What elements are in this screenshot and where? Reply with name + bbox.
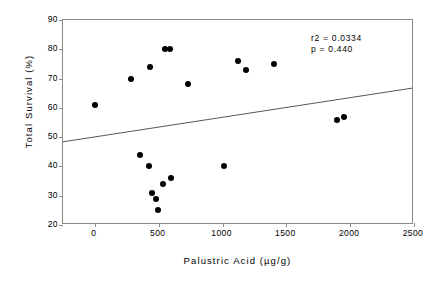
statistics-annotation: r2 = 0.0334 p = 0.440 xyxy=(311,33,362,55)
r-squared-label: r2 = 0.0334 xyxy=(311,33,362,44)
y-axis-tick-label: 90 xyxy=(12,14,58,24)
x-axis-tick xyxy=(350,223,351,227)
y-axis-tick-label: 20 xyxy=(12,219,58,229)
plot-frame: r2 = 0.0334 p = 0.440 xyxy=(62,19,413,224)
x-axis-tick-label: 2500 xyxy=(383,228,437,238)
x-axis-tick xyxy=(414,223,415,227)
data-point xyxy=(137,152,143,158)
y-axis-tick-label: 50 xyxy=(12,131,58,141)
p-value-label: p = 0.440 xyxy=(311,44,362,55)
data-point xyxy=(271,61,277,67)
x-axis-tick xyxy=(159,223,160,227)
data-point xyxy=(149,190,155,196)
x-axis-tick-label: 2000 xyxy=(319,228,379,238)
y-axis-tick-label: 60 xyxy=(12,102,58,112)
data-point xyxy=(243,67,249,73)
y-axis-tick-labels: 2030405060708090 xyxy=(12,19,58,224)
x-axis-tick xyxy=(223,223,224,227)
data-point xyxy=(146,163,152,169)
y-axis-tick-label: 30 xyxy=(12,190,58,200)
y-axis-tick-label: 80 xyxy=(12,43,58,53)
y-axis-tick xyxy=(59,196,63,197)
x-axis-tick-label: 0 xyxy=(64,228,124,238)
y-axis-tick xyxy=(59,166,63,167)
x-axis-tick xyxy=(286,223,287,227)
y-axis-tick xyxy=(59,49,63,50)
y-axis-tick-label: 40 xyxy=(12,160,58,170)
x-axis-tick-label: 1000 xyxy=(192,228,252,238)
y-axis-tick xyxy=(59,20,63,21)
data-point xyxy=(153,196,159,202)
data-point xyxy=(235,58,241,64)
data-point xyxy=(167,46,173,52)
x-axis-tick-label: 500 xyxy=(128,228,188,238)
y-axis-tick xyxy=(59,137,63,138)
x-axis-title: Palustric Acid (µg/g) xyxy=(62,255,413,266)
data-point xyxy=(221,163,227,169)
scatter-plot-figure: Total Survival (%) 2030405060708090 r2 =… xyxy=(0,0,437,281)
data-point xyxy=(92,102,98,108)
data-point xyxy=(341,114,347,120)
x-axis-tick xyxy=(95,223,96,227)
data-point xyxy=(128,76,134,82)
data-point xyxy=(168,175,174,181)
y-axis-tick xyxy=(59,225,63,226)
data-point xyxy=(160,181,166,187)
y-axis-tick-label: 70 xyxy=(12,73,58,83)
data-point xyxy=(147,64,153,70)
data-point xyxy=(155,207,161,213)
x-axis-tick-label: 1500 xyxy=(255,228,315,238)
data-point xyxy=(185,81,191,87)
y-axis-tick xyxy=(59,79,63,80)
y-axis-tick xyxy=(59,108,63,109)
x-axis-tick-labels: 05001000150020002500 xyxy=(62,228,413,242)
data-point xyxy=(334,117,340,123)
